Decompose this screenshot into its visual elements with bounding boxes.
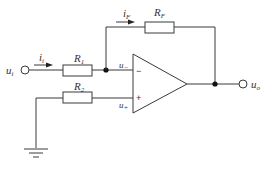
op-amp-minus-sign: − (136, 66, 141, 76)
ground-icon (24, 149, 48, 157)
label-input-current: ii (39, 51, 44, 65)
label-output-voltage: uo (251, 78, 261, 92)
label-feedback-current: iF (123, 7, 131, 21)
junction-node-output (212, 81, 217, 86)
circuit-diagram: ui ii R1 R2 iF RF u− u+ − + uo (0, 0, 268, 173)
op-amp-plus-sign: + (136, 93, 141, 103)
label-r2: R2 (73, 80, 85, 94)
label-r1: R1 (73, 52, 84, 66)
output-terminal (239, 80, 247, 88)
wire-feedback-right (174, 27, 215, 84)
resistor-r1 (63, 65, 92, 76)
feedback-branch (106, 20, 215, 85)
resistor-rf (145, 22, 174, 33)
noninverting-branch (24, 92, 133, 157)
label-noninverting-input: u+ (119, 100, 129, 112)
wire-ground-to-r2 (36, 98, 63, 148)
op-amp-triangle (133, 54, 187, 113)
resistor-r2 (63, 92, 92, 103)
label-input-voltage: ui (6, 64, 14, 78)
input-terminal (21, 66, 29, 74)
arrow-ii-head-icon (46, 63, 53, 68)
label-rf: RF (153, 6, 166, 20)
